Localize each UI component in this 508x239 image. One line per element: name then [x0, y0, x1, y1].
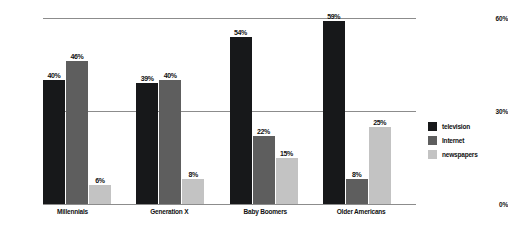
x-label-older-americans: Older Americans: [323, 208, 416, 215]
bar-rect: [346, 179, 368, 204]
bar-rect: [43, 80, 65, 204]
bar-internet-older-americans: 8%: [346, 179, 368, 204]
legend-swatch-icon: [428, 150, 437, 159]
bar-rect: [369, 127, 391, 205]
chart-legend: televisionInternetnewspapers: [428, 122, 478, 164]
axis-baseline: [43, 204, 416, 205]
bar-rect: [66, 61, 88, 204]
bar-value-label: 40%: [47, 72, 60, 79]
bar-rect: [323, 21, 345, 204]
bar-television-generation-x: 39%: [136, 83, 158, 204]
bar-rect: [253, 136, 275, 204]
legend-label: newspapers: [442, 151, 478, 158]
legend-label: Internet: [442, 137, 464, 144]
bar-value-label: 8%: [188, 171, 198, 178]
bar-value-label: 54%: [234, 29, 247, 36]
legend-swatch-icon: [428, 122, 437, 131]
bar-television-baby-boomers: 54%: [230, 37, 252, 204]
y-tick-60: 60%: [472, 15, 508, 22]
bar-rect: [136, 83, 158, 204]
legend-item-newspapers[interactable]: newspapers: [428, 150, 478, 159]
bar-internet-baby-boomers: 22%: [253, 136, 275, 204]
bar-group: 54%22%15%: [230, 18, 323, 204]
bar-value-label: 15%: [280, 150, 293, 157]
legend-swatch-icon: [428, 136, 437, 145]
bar-value-label: 25%: [373, 119, 386, 126]
bar-rect: [230, 37, 252, 204]
bar-newspapers-generation-x: 8%: [182, 179, 204, 204]
bar-group: 40%46%6%: [43, 18, 136, 204]
y-tick-30: 30%: [472, 108, 508, 115]
bar-newspapers-baby-boomers: 15%: [276, 158, 298, 205]
bar-newspapers-older-americans: 25%: [369, 127, 391, 205]
bar-group: 39%40%8%: [136, 18, 229, 204]
bar-internet-generation-x: 40%: [159, 80, 181, 204]
bar-value-label: 59%: [327, 13, 340, 20]
legend-item-television[interactable]: television: [428, 122, 478, 131]
bar-rect: [276, 158, 298, 205]
bar-value-label: 46%: [70, 53, 83, 60]
bar-television-older-americans: 59%: [323, 21, 345, 204]
legend-label: television: [442, 123, 470, 130]
bar-value-label: 8%: [352, 171, 362, 178]
bar-value-label: 6%: [95, 177, 105, 184]
bar-value-label: 22%: [257, 128, 270, 135]
bar-value-label: 40%: [164, 72, 177, 79]
bar-groups: 40%46%6%39%40%8%54%22%15%59%8%25%: [43, 18, 416, 204]
bar-group: 59%8%25%: [323, 18, 416, 204]
y-tick-0: 0%: [472, 201, 508, 208]
grouped-bar-chart: 60% 30% 0% 40%46%6%39%40%8%54%22%15%59%8…: [0, 0, 508, 239]
bar-rect: [89, 185, 111, 204]
plot-area: 40%46%6%39%40%8%54%22%15%59%8%25%: [43, 18, 416, 204]
bar-internet-millennials: 46%: [66, 61, 88, 204]
bar-television-millennials: 40%: [43, 80, 65, 204]
x-label-baby-boomers: Baby Boomers: [230, 208, 323, 215]
bar-rect: [182, 179, 204, 204]
bar-rect: [159, 80, 181, 204]
legend-item-internet[interactable]: Internet: [428, 136, 478, 145]
x-label-generation-x: Generation X: [136, 208, 229, 215]
bar-newspapers-millennials: 6%: [89, 185, 111, 204]
x-axis-labels: MillennialsGeneration XBaby BoomersOlder…: [43, 208, 416, 215]
bar-value-label: 39%: [141, 75, 154, 82]
x-label-millennials: Millennials: [43, 208, 136, 215]
